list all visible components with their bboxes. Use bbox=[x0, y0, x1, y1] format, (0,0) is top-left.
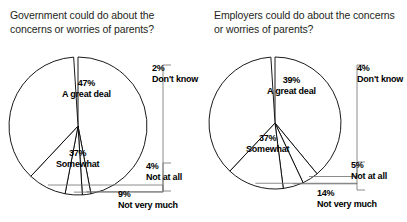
pie-slice-label: 39%A great deal bbox=[267, 75, 316, 97]
pie-slice-percent: 39% bbox=[267, 75, 316, 86]
pie-slice-percent: 14% bbox=[317, 188, 377, 199]
pie-slice-percent: 37% bbox=[56, 148, 99, 159]
pie-slice-name: Somewhat bbox=[56, 159, 99, 170]
pie-slice-name: Not very much bbox=[317, 199, 377, 210]
pie-slice-name: Not very much bbox=[118, 200, 178, 211]
pie-slice-name: Don't know bbox=[152, 74, 198, 85]
pie-slice-label: 37%Somewhat bbox=[56, 148, 99, 170]
pie-slice-name: A great deal bbox=[62, 89, 111, 100]
pie-slice-name: Not at all bbox=[146, 172, 182, 183]
pie-slice-label: 47%A great deal bbox=[62, 78, 111, 100]
pie-slice-percent: 5% bbox=[351, 160, 387, 171]
pie-slice-percent: 47% bbox=[62, 78, 111, 89]
pie-slice-percent: 37% bbox=[246, 133, 289, 144]
pie-slice-name: Somewhat bbox=[246, 144, 289, 155]
pie-slice-label: 4%Don't know bbox=[357, 63, 403, 85]
pie-slice-label: 14%Not very much bbox=[317, 188, 377, 210]
pie-slice-percent: 4% bbox=[357, 63, 403, 74]
pie-slice-percent: 2% bbox=[152, 63, 198, 74]
pie-slice-label: 37%Somewhat bbox=[246, 133, 289, 155]
pie-slice-label: 5%Not at all bbox=[351, 160, 387, 182]
chart-panel-government: Government could do about the concerns o… bbox=[0, 0, 203, 222]
pie-slice-percent: 9% bbox=[118, 189, 178, 200]
pie-slice-name: A great deal bbox=[267, 86, 316, 97]
pie-slice-label: 9%Not very much bbox=[118, 189, 178, 211]
chart-panel-employers: Employers could do about the concerns or… bbox=[204, 0, 407, 222]
pie-slice-percent: 4% bbox=[146, 161, 182, 172]
pie-slice-name: Not at all bbox=[351, 171, 387, 182]
pie-slice-name: Don't know bbox=[357, 74, 403, 85]
pie-slice-label: 2%Don't know bbox=[152, 63, 198, 85]
pie-slice-label: 4%Not at all bbox=[146, 161, 182, 183]
